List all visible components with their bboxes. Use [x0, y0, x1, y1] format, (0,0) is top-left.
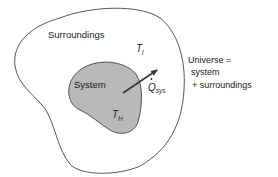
universe-diagram: Surroundings Tl System TH Qsys Universe …: [0, 0, 278, 177]
universe-definition-line1: Universe =: [188, 55, 231, 65]
surroundings-label: Surroundings: [48, 29, 105, 40]
universe-definition-line3: + surroundings: [192, 80, 252, 90]
universe-definition-line2: system: [191, 67, 220, 77]
diagram-svg: Surroundings Tl System TH Qsys Universe …: [0, 0, 278, 177]
heat-flow-dot: [151, 78, 153, 80]
system-label: System: [74, 79, 106, 90]
